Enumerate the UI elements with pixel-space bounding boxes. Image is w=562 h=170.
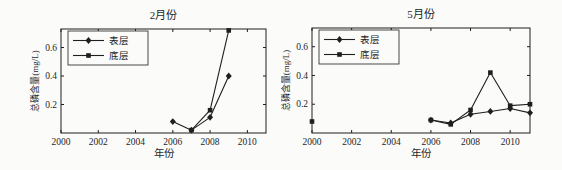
chart-february: 2000200220042006200820100.20.40.62月份年份总磷… bbox=[0, 0, 281, 170]
y-tick-label: 0.4 bbox=[45, 71, 57, 81]
y-axis-label: 总磷含量(mg/L) bbox=[281, 50, 291, 112]
x-tick-label: 2008 bbox=[201, 137, 220, 147]
x-tick-label: 2000 bbox=[303, 137, 322, 147]
chart-may-panel: 5月份 2000200220042006200820100.20.40.65月份… bbox=[281, 0, 562, 170]
legend-label: 底层 bbox=[360, 49, 380, 60]
chart-title: 2月份 bbox=[150, 9, 178, 21]
legend-box bbox=[319, 30, 399, 64]
chart-february-panel: 2月份 2000200220042006200820100.20.40.62月份… bbox=[0, 0, 281, 170]
legend-label: 表层 bbox=[360, 34, 380, 45]
data-point-square bbox=[208, 108, 213, 113]
data-point-square bbox=[528, 102, 533, 107]
x-tick-label: 2004 bbox=[382, 137, 401, 147]
data-point-diamond bbox=[207, 114, 213, 121]
series-line-square bbox=[431, 73, 530, 125]
x-tick-label: 2010 bbox=[501, 137, 520, 147]
y-tick-label: 0.2 bbox=[45, 100, 57, 110]
legend-label: 底层 bbox=[109, 50, 129, 61]
x-axis-label: 年份 bbox=[154, 147, 175, 159]
legend-marker-square bbox=[86, 53, 91, 58]
y-tick-label: 0.6 bbox=[45, 43, 57, 53]
x-tick-label: 2002 bbox=[89, 137, 108, 147]
data-point-square bbox=[429, 118, 434, 123]
x-tick-label: 2000 bbox=[52, 137, 71, 147]
data-point-square bbox=[448, 122, 453, 127]
data-point-square bbox=[310, 119, 315, 124]
x-tick-label: 2010 bbox=[238, 137, 257, 147]
data-point-square bbox=[468, 108, 473, 113]
series-line-diamond bbox=[431, 109, 530, 123]
data-point-square bbox=[189, 128, 194, 133]
x-axis-label: 年份 bbox=[411, 147, 432, 159]
legend-marker-square bbox=[337, 52, 342, 57]
x-tick-label: 2002 bbox=[342, 137, 361, 147]
data-point-square bbox=[488, 70, 493, 75]
data-point-diamond bbox=[527, 109, 533, 116]
chart-may: 2000200220042006200820100.20.40.65月份年份总磷… bbox=[281, 0, 562, 170]
data-point-square bbox=[508, 103, 513, 108]
data-point-diamond bbox=[170, 118, 176, 125]
data-point-diamond bbox=[226, 73, 232, 80]
scanned-figure: 2月份 2000200220042006200820100.20.40.62月份… bbox=[0, 0, 562, 170]
x-tick-label: 2008 bbox=[461, 137, 480, 147]
x-tick-label: 2006 bbox=[163, 137, 182, 147]
y-axis-label: 总磷含量(mg/L) bbox=[29, 50, 40, 112]
y-tick-label: 0.2 bbox=[296, 99, 308, 109]
chart-title: 5月份 bbox=[407, 8, 435, 20]
series-line-diamond bbox=[173, 76, 229, 130]
x-tick-label: 2006 bbox=[421, 137, 440, 147]
data-point-square bbox=[226, 28, 231, 33]
y-tick-label: 0.4 bbox=[296, 71, 308, 81]
legend-label: 表层 bbox=[109, 35, 129, 46]
y-tick-label: 0.6 bbox=[296, 42, 308, 52]
x-tick-label: 2004 bbox=[126, 137, 145, 147]
legend-box bbox=[68, 31, 148, 65]
data-point-diamond bbox=[487, 108, 493, 115]
